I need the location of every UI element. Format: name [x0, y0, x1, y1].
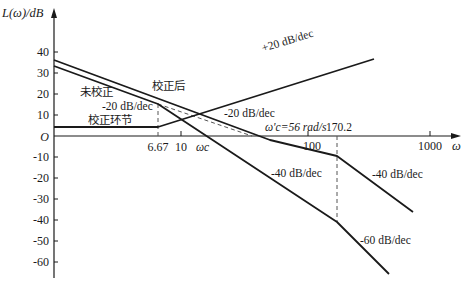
freq-170-label: 170.2 [326, 121, 352, 133]
y-tick-label: 30 [37, 66, 49, 80]
x-tick-label: 10 [175, 140, 187, 154]
bode-chart: 40 30 20 10 O -10 -20 -30 -40 -50 -60 6.… [0, 0, 473, 289]
slope-label: -40 dB/dec [372, 168, 423, 180]
slope-label: +20 dB/dec [260, 27, 315, 54]
x-axis-title: ω [452, 139, 461, 153]
uncorrected-label: 未校正 [80, 85, 113, 99]
corrected-label: 校正后 [152, 79, 185, 93]
y-axis-title: L(ω)/dB [1, 6, 44, 20]
x-tick-label: 6.67 [148, 140, 169, 154]
y-tick-label: -10 [33, 150, 49, 164]
y-tick-label: -60 [33, 255, 49, 269]
origin-label: O [40, 130, 49, 144]
crossover-prime-label: ω'c=56 rad/s [265, 121, 327, 133]
y-tick-label: -40 [33, 213, 49, 227]
crossover-label: ωc [196, 141, 209, 153]
slope-label: -60 dB/dec [360, 234, 411, 246]
y-tick-label: 10 [37, 108, 49, 122]
y-tick-label: -50 [33, 234, 49, 248]
y-tick-label: -30 [33, 192, 49, 206]
x-tick-label: 1000 [418, 139, 442, 153]
compensator-label: 校正环节 [88, 113, 132, 127]
y-tick-label: 20 [37, 87, 49, 101]
y-axis-arrow-icon [51, 8, 57, 18]
y-tick-labels: 40 30 20 10 O -10 -20 -30 -40 -50 -60 [33, 45, 49, 269]
slope-label: -20 dB/dec [102, 100, 153, 112]
y-tick-label: -20 [33, 171, 49, 185]
slope-label: -20 dB/dec [224, 107, 275, 119]
y-tick-label: 40 [37, 45, 49, 59]
slope-label: -40 dB/dec [271, 167, 322, 179]
